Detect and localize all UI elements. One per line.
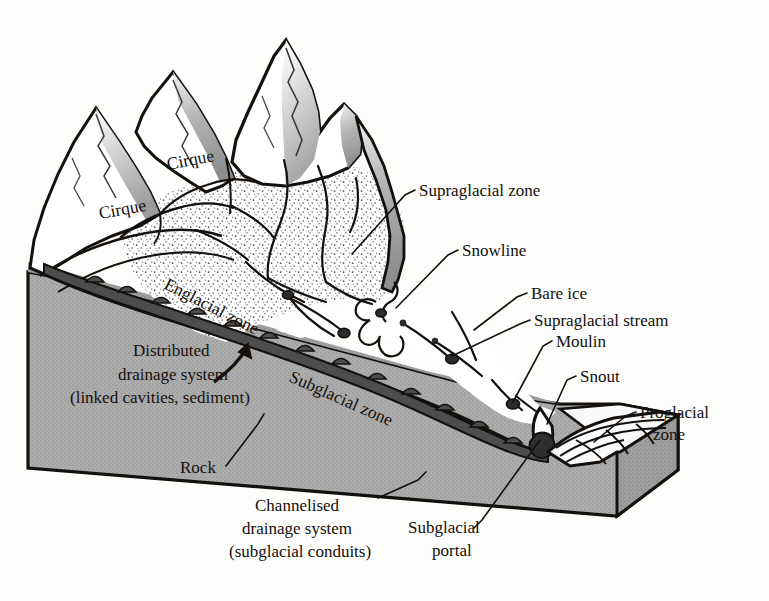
label-distributed-line3: (linked cavities, sediment) <box>70 388 250 407</box>
glacier-diagram: Cirque Cirque Englacial zone Subglacial … <box>0 0 769 601</box>
peak-right-high <box>232 40 362 186</box>
moulin-blob <box>338 328 350 337</box>
label-subglacial-portal-line2: portal <box>432 541 472 560</box>
label-supraglacial-zone: Supraglacial zone <box>419 181 540 200</box>
label-proglacial-zone-line2: zone <box>653 425 685 444</box>
label-moulin: Moulin <box>556 332 607 351</box>
label-bare-ice: Bare ice <box>531 284 587 303</box>
label-distributed-line1: Distributed <box>133 341 210 360</box>
moulin-blob <box>283 291 294 299</box>
label-rock: Rock <box>180 458 216 477</box>
label-channelised-line3: (subglacial conduits) <box>229 542 371 561</box>
label-snowline: Snowline <box>462 241 526 260</box>
diagram-canvas: Cirque Cirque Englacial zone Subglacial … <box>0 0 769 601</box>
moulin-blob <box>376 309 386 317</box>
label-proglacial-zone-line1: Proglacial <box>640 403 709 422</box>
label-channelised-line2: drainage system <box>242 519 352 538</box>
label-supraglacial-stream: Supraglacial stream <box>534 311 669 330</box>
label-subglacial-portal-line1: Subglacial <box>408 518 480 537</box>
peak-mid <box>136 72 234 192</box>
label-channelised-line1: Channelised <box>255 496 340 515</box>
label-distributed-line2: drainage system <box>118 365 228 384</box>
label-snout: Snout <box>580 367 620 386</box>
